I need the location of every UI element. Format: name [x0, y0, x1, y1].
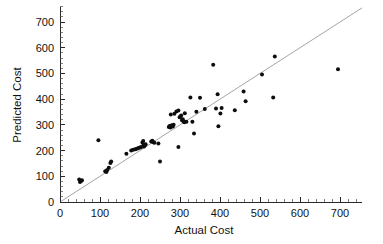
data-point [194, 110, 198, 114]
data-point [211, 63, 215, 67]
data-point [152, 141, 156, 145]
x-axis-title: Actual Cost [175, 224, 235, 236]
data-point [220, 106, 224, 110]
data-point [179, 114, 183, 118]
data-point [244, 99, 248, 103]
data-point [96, 138, 100, 142]
x-tick-label: 200 [131, 207, 149, 219]
data-point [233, 108, 237, 112]
data-point [273, 54, 277, 58]
y-axis-title: Predicted Cost [11, 66, 23, 142]
data-point [260, 72, 264, 76]
y-tick-label: 200 [36, 145, 54, 157]
data-point [107, 166, 111, 170]
y-axis-tick-labels: 0100200300400500600700 [36, 16, 54, 208]
y-tick-label: 0 [48, 196, 54, 208]
data-point [192, 132, 196, 136]
y-tick-label: 400 [36, 93, 54, 105]
data-point [336, 67, 340, 71]
x-tick-label: 0 [57, 207, 63, 219]
plot-canvas: 0100200300400500600700 01002003004005006… [0, 0, 383, 244]
data-point [80, 178, 84, 182]
data-point [183, 111, 187, 115]
data-points-group [77, 54, 340, 183]
data-point [172, 123, 176, 127]
data-point [190, 120, 194, 124]
x-tick-label: 300 [171, 207, 189, 219]
data-point [124, 152, 128, 156]
x-tick-label: 500 [251, 207, 269, 219]
x-tick-label: 700 [331, 207, 349, 219]
data-point [214, 106, 218, 110]
data-point [242, 89, 246, 93]
data-point [203, 107, 207, 111]
data-point [176, 145, 180, 149]
y-tick-label: 500 [36, 67, 54, 79]
y-tick-label: 600 [36, 42, 54, 54]
data-point [271, 96, 275, 100]
data-point [188, 96, 192, 100]
y-tick-label: 100 [36, 170, 54, 182]
scatter-plot-figure: 0100200300400500600700 01002003004005006… [0, 0, 383, 244]
data-point [184, 120, 188, 124]
x-tick-label: 600 [291, 207, 309, 219]
data-point [216, 92, 220, 96]
data-point [144, 142, 148, 146]
x-tick-label: 400 [211, 207, 229, 219]
x-tick-label: 100 [91, 207, 109, 219]
data-point [216, 124, 220, 128]
data-point [169, 113, 173, 117]
data-point [198, 96, 202, 100]
data-point [218, 112, 222, 116]
data-point [176, 108, 180, 112]
data-point [156, 141, 160, 145]
x-axis-tick-labels: 0100200300400500600700 [57, 207, 349, 219]
data-point [158, 159, 162, 163]
y-tick-label: 700 [36, 16, 54, 28]
y-tick-label: 300 [36, 119, 54, 131]
data-point [109, 159, 113, 163]
